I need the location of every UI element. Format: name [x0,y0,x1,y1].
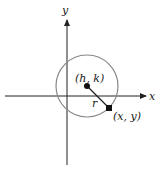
radius-line [87,86,109,108]
circle-diagram: y x (h, k) r (x, y) [0,0,166,170]
y-axis-label: y [61,4,69,17]
x-axis-label: x [149,90,156,103]
point-label: (x, y) [113,110,141,123]
circle-point [106,105,112,111]
center-label: (h, k) [75,72,104,85]
radius-label: r [92,97,98,110]
